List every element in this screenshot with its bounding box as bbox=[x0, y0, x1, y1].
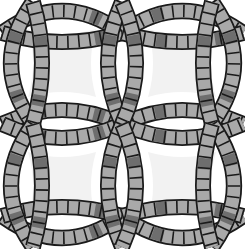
band-right-top-inner bbox=[203, 2, 212, 124]
band-right-bottom-inner bbox=[203, 124, 212, 247]
quilt-pattern-figure bbox=[0, 0, 245, 249]
band-left-top-inner bbox=[33, 2, 42, 124]
ring-bands bbox=[2, 2, 243, 247]
band-left-bottom-inner bbox=[33, 124, 42, 247]
double-wedding-ring-quilt bbox=[0, 0, 245, 249]
